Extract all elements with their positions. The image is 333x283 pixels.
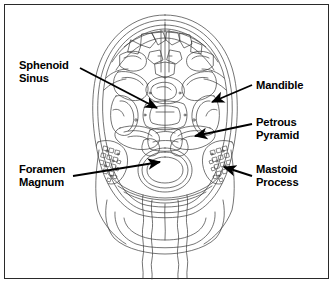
label-foramen-magnum: Foramen Magnum [19,163,65,189]
label-petrous-pyramid-line-2: Pyramid [256,129,299,142]
label-sphenoid-sinus-line-2: Sinus [19,72,69,85]
label-mastoid-process-line-2: Process [256,176,299,189]
leader-line-sphenoid-sinus [80,68,157,108]
label-petrous-pyramid-line-1: Petrous [256,116,299,129]
figure-page: Sphenoid Sinus Mandible Petrous Pyramid … [0,0,333,283]
label-mastoid-process-line-1: Mastoid [256,163,299,176]
label-sphenoid-sinus-line-1: Sphenoid [19,59,69,72]
label-foramen-magnum-line-1: Foramen [19,163,65,176]
label-sphenoid-sinus: Sphenoid Sinus [19,59,69,85]
label-petrous-pyramid: Petrous Pyramid [256,116,299,142]
leader-line-petrous-pyramid [195,124,252,136]
label-mandible-line-1: Mandible [256,79,303,92]
label-mastoid-process: Mastoid Process [256,163,299,189]
label-mandible: Mandible [256,79,303,92]
label-foramen-magnum-line-2: Magnum [19,176,65,189]
leader-line-mastoid-process [224,167,252,176]
